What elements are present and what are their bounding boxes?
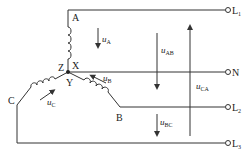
neutral-node-icon bbox=[66, 70, 70, 74]
terminal-l3-label: L3 bbox=[232, 138, 241, 150]
terminal-l2-label: L2 bbox=[232, 102, 241, 114]
coil-c-icon bbox=[31, 77, 55, 87]
label-uc: uC bbox=[47, 97, 56, 108]
node-c-label: C bbox=[8, 95, 15, 106]
terminal-l2-icon[interactable] bbox=[226, 105, 231, 110]
node-z-label: Z bbox=[58, 62, 64, 73]
label-uca: uCA bbox=[196, 81, 210, 92]
label-ua: uA bbox=[102, 34, 112, 45]
three-phase-star-diagram: A X Z Y B C uA uB uC uAB uBC uCA L1 N L2… bbox=[0, 0, 249, 150]
node-x-label: X bbox=[72, 60, 80, 71]
terminal-n-label: N bbox=[232, 67, 239, 78]
label-ub: uB bbox=[103, 73, 112, 84]
terminal-l1-icon[interactable] bbox=[226, 8, 231, 13]
terminal-n-icon[interactable] bbox=[226, 70, 231, 75]
node-a-label: A bbox=[72, 12, 80, 23]
coil-a-icon bbox=[68, 27, 71, 59]
wire-b-end bbox=[108, 92, 120, 107]
terminal-l3-icon[interactable] bbox=[226, 141, 231, 146]
node-b-label: B bbox=[116, 112, 123, 123]
terminal-l1-label: L1 bbox=[232, 5, 241, 17]
node-y-label: Y bbox=[66, 77, 73, 88]
wire-c-end bbox=[17, 87, 31, 105]
label-uab: uAB bbox=[161, 45, 174, 56]
label-ubc: uBC bbox=[160, 117, 173, 128]
